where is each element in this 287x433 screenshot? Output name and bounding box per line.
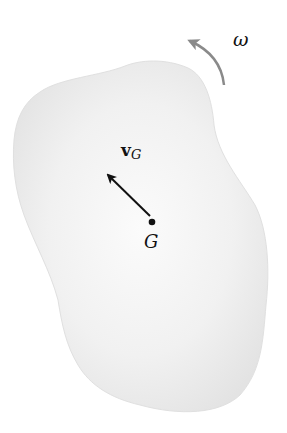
- omega-label: ω: [233, 28, 249, 50]
- velocity-label: vG: [121, 140, 141, 160]
- center-of-mass-label: G: [144, 231, 158, 252]
- velocity-symbol: v: [121, 140, 131, 160]
- rigid-body: [13, 61, 267, 412]
- velocity-subscript: G: [131, 147, 141, 162]
- diagram-canvas: [0, 0, 287, 433]
- center-of-mass-point: [149, 219, 156, 226]
